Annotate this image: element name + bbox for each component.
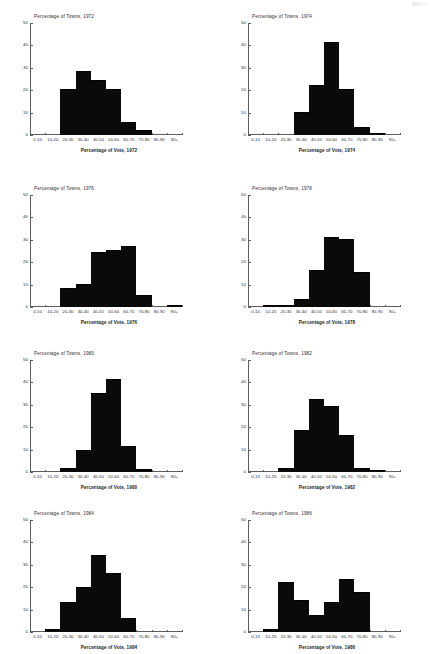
x-axis-tick-label: 10-20 xyxy=(265,138,276,142)
x-axis-tick-label: 50-60 xyxy=(326,475,337,479)
x-axis-tick-label: 20-30 xyxy=(281,475,292,479)
chart-title: Percentage of Towns, 1982 xyxy=(252,351,312,356)
x-axis-title: Percentage of Vote, 1978 xyxy=(218,320,436,325)
y-axis-tick xyxy=(30,240,33,241)
y-axis-tick xyxy=(30,68,33,69)
histogram-bar xyxy=(121,122,136,135)
x-axis-tick xyxy=(248,305,249,308)
x-axis-tick-label: 0-10 xyxy=(33,475,42,479)
x-axis-tick-label: 40-50 xyxy=(93,138,104,142)
plot-area: 010203040500-1010-2020-3030-4040-5050-60… xyxy=(248,360,400,472)
x-axis-tick xyxy=(152,470,153,473)
x-axis-tick-label: 30-40 xyxy=(296,475,307,479)
y-axis-tick-label: 10 xyxy=(23,110,28,114)
x-axis-tick-label: 60-70 xyxy=(123,635,134,639)
y-axis-line xyxy=(248,23,249,135)
histogram-bar xyxy=(294,430,309,472)
x-axis-tick xyxy=(400,630,401,633)
y-axis-tick-label: 40 xyxy=(241,215,246,219)
chart-panel: Percentage of Towns, 1972010203040500-10… xyxy=(0,0,218,172)
y-axis-tick xyxy=(30,45,33,46)
x-axis-tick xyxy=(30,305,31,308)
histogram-bar xyxy=(354,592,369,632)
y-axis-tick-label: 0 xyxy=(26,305,28,309)
x-axis-tick-label: 20-30 xyxy=(63,310,74,314)
x-axis-tick-label: 50-60 xyxy=(108,310,119,314)
histogram-bar xyxy=(76,450,91,472)
x-axis-tick xyxy=(400,470,401,473)
y-axis-tick xyxy=(30,217,33,218)
x-axis-tick-label: 70-80 xyxy=(357,475,368,479)
x-axis-title: Percentage of Vote, 1980 xyxy=(0,485,218,490)
x-axis-tick-label: 0-10 xyxy=(251,310,260,314)
y-axis-tick-label: 10 xyxy=(241,110,246,114)
plot-area: 010203040500-1010-2020-3030-4040-5050-60… xyxy=(248,520,400,632)
x-axis-tick xyxy=(385,133,386,136)
histogram-bar xyxy=(278,305,293,307)
chart-title: Percentage of Towns, 1986 xyxy=(252,511,312,516)
histogram-bar xyxy=(45,629,60,632)
x-axis-tick-label: 40-50 xyxy=(311,310,322,314)
x-axis-tick-label: 50-60 xyxy=(108,475,119,479)
histogram-bar xyxy=(106,250,121,307)
x-axis-tick-label: 90+ xyxy=(389,310,396,314)
y-axis-line xyxy=(248,520,249,632)
histogram-bar xyxy=(106,573,121,632)
x-axis-tick-label: 30-40 xyxy=(78,310,89,314)
x-axis-title: Percentage of Vote, 1972 xyxy=(0,148,218,153)
histogram-bar xyxy=(339,239,354,307)
x-axis-tick-label: 40-50 xyxy=(311,635,322,639)
y-axis-tick-label: 0 xyxy=(244,305,246,309)
y-axis-tick-label: 20 xyxy=(23,585,28,589)
x-axis-tick-label: 10-20 xyxy=(47,310,58,314)
y-axis-tick xyxy=(248,135,251,136)
x-axis-tick xyxy=(400,305,401,308)
y-axis-line xyxy=(30,23,31,135)
x-axis-tick xyxy=(248,133,249,136)
histogram-bar xyxy=(121,446,136,472)
y-axis-tick-label: 40 xyxy=(241,43,246,47)
y-axis-tick xyxy=(248,427,251,428)
x-axis-tick xyxy=(152,630,153,633)
y-axis-tick-label: 50 xyxy=(23,21,28,25)
histogram-bar xyxy=(121,618,136,632)
y-axis-tick xyxy=(30,382,33,383)
x-axis-tick-label: 80-90 xyxy=(154,310,165,314)
histogram-bar xyxy=(294,112,309,135)
histogram-bar xyxy=(324,237,339,307)
x-axis-tick-label: 60-70 xyxy=(341,635,352,639)
y-axis-tick xyxy=(248,195,251,196)
x-axis-tick-label: 20-30 xyxy=(281,138,292,142)
histogram-bar xyxy=(60,468,75,472)
chart-title: Percentage of Towns, 1974 xyxy=(252,14,312,19)
y-axis-tick-label: 20 xyxy=(241,585,246,589)
y-axis-tick-label: 30 xyxy=(241,563,246,567)
x-axis-tick xyxy=(152,133,153,136)
y-axis-tick-label: 50 xyxy=(23,193,28,197)
x-axis-tick-label: 70-80 xyxy=(139,635,150,639)
y-axis-tick xyxy=(30,405,33,406)
y-axis-line xyxy=(30,195,31,307)
y-axis-tick xyxy=(248,587,251,588)
histogram-bar xyxy=(121,246,136,307)
x-axis-tick-label: 80-90 xyxy=(372,475,383,479)
x-axis-tick-label: 0-10 xyxy=(33,635,42,639)
y-axis-tick xyxy=(248,23,251,24)
x-axis-tick-label: 90+ xyxy=(389,475,396,479)
y-axis-tick xyxy=(30,610,33,611)
x-axis-tick-label: 70-80 xyxy=(139,310,150,314)
x-axis-tick xyxy=(182,470,183,473)
x-axis-tick-label: 50-60 xyxy=(326,635,337,639)
y-axis-tick xyxy=(30,450,33,451)
x-axis-tick-label: 0-10 xyxy=(33,310,42,314)
y-axis-tick-label: 10 xyxy=(23,282,28,286)
x-axis-tick xyxy=(385,630,386,633)
x-axis-tick xyxy=(385,305,386,308)
y-axis-tick-label: 30 xyxy=(241,238,246,242)
y-axis-tick xyxy=(30,285,33,286)
y-axis-tick xyxy=(248,217,251,218)
x-axis-tick-label: 40-50 xyxy=(93,310,104,314)
x-axis-tick xyxy=(30,133,31,136)
y-axis-tick xyxy=(248,90,251,91)
x-axis-tick xyxy=(182,133,183,136)
